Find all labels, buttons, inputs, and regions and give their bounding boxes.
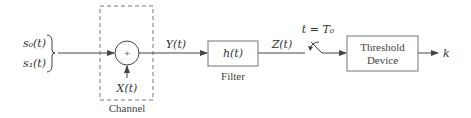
filter-transfer: h(t) (223, 47, 243, 60)
threshold-line1: Threshold (360, 41, 405, 53)
noise-label: X(t) (116, 82, 138, 95)
channel-label: Channel (109, 102, 146, 114)
input-s1: s₁(t) (23, 57, 46, 70)
sampler-arc-arrowhead (308, 46, 313, 51)
output-label: k (443, 47, 450, 60)
input-s0: s₀(t) (23, 37, 46, 50)
threshold-line2: Device (367, 54, 398, 66)
adder-plus: + (124, 47, 130, 59)
sampler-label: t = T₀ (302, 23, 335, 36)
z-label: Z(t) (271, 38, 293, 51)
y-label: Y(t) (166, 38, 186, 51)
communication-system-diagram: s₀(t) s₁(t) Channel + X(t) Y(t) h(t) Fil… (0, 0, 471, 118)
input-brace (47, 35, 55, 72)
filter-label: Filter (221, 70, 245, 82)
